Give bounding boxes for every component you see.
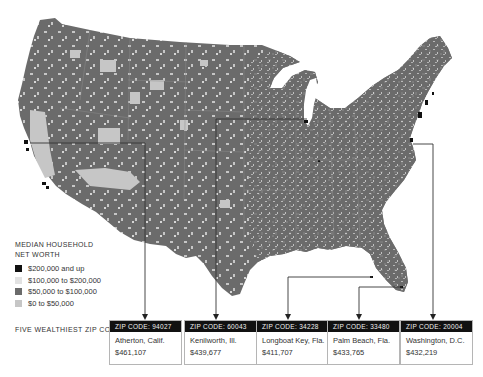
- legend: MEDIAN HOUSEHOLD NET WORTH $200,000 and …: [15, 240, 101, 309]
- zip-net-worth: $439,677: [185, 348, 256, 357]
- zip-code-header: ZIP CODE: 60043: [185, 321, 256, 332]
- zip-place: Kenilworth, Ill.: [185, 336, 256, 345]
- legend-item-200k-up: $200,000 and up: [15, 263, 101, 275]
- legend-label: $50,000 to $100,000: [28, 287, 97, 296]
- swatch-very-light-gray: [15, 277, 22, 284]
- zip-callout-atherton: ZIP CODE: 94027 Atherton, Calif. $461,10…: [109, 320, 182, 365]
- zip-code-header: ZIP CODE: 94027: [110, 321, 181, 332]
- zip-place: Washington, D.C.: [401, 336, 472, 345]
- legend-item-100k-200k: $100,000 to $200,000: [15, 275, 101, 287]
- leader-palmbeach: [359, 287, 402, 318]
- zip-callout-washington: ZIP CODE: 20004 Washington, D.C. $432,21…: [400, 320, 473, 365]
- legend-label: $200,000 and up: [28, 264, 84, 273]
- legend-title-line2: NET WORTH: [15, 250, 101, 260]
- zip-code-header: ZIP CODE: 34228: [257, 321, 328, 332]
- legend-item-0-50k: $0 to $50,000: [15, 298, 101, 310]
- zip-net-worth: $411,707: [257, 348, 328, 357]
- eastern-region-texture: [248, 36, 452, 292]
- legend-title-line1: MEDIAN HOUSEHOLD: [15, 240, 101, 250]
- legend-items: $200,000 and up $100,000 to $200,000 $50…: [15, 263, 101, 309]
- zip-code-header: ZIP CODE: 33480: [328, 321, 399, 332]
- swatch-light-gray: [15, 300, 22, 307]
- zip-callout-kenilworth: ZIP CODE: 60043 Kenilworth, Ill. $439,67…: [184, 320, 257, 365]
- zip-callout-longboat-key: ZIP CODE: 34228 Longboat Key, Fla. $411,…: [256, 320, 329, 365]
- zip-place: Longboat Key, Fla.: [257, 336, 328, 345]
- zip-net-worth: $432,219: [401, 348, 472, 357]
- legend-label: $0 to $50,000: [28, 299, 74, 308]
- zip-code-header: ZIP CODE: 20004: [401, 321, 472, 332]
- zip-net-worth: $461,107: [110, 348, 181, 357]
- zip-place: Atherton, Calif.: [110, 336, 181, 345]
- zip-net-worth: $433,765: [328, 348, 399, 357]
- swatch-dark-gray: [15, 288, 22, 295]
- legend-label: $100,000 to $200,000: [28, 276, 101, 285]
- zip-place: Palm Beach, Fla.: [328, 336, 399, 345]
- swatch-black: [15, 265, 22, 272]
- legend-item-50k-100k: $50,000 to $100,000: [15, 286, 101, 298]
- zip-callout-palm-beach: ZIP CODE: 33480 Palm Beach, Fla. $433,76…: [327, 320, 400, 365]
- leader-washington: [413, 144, 433, 318]
